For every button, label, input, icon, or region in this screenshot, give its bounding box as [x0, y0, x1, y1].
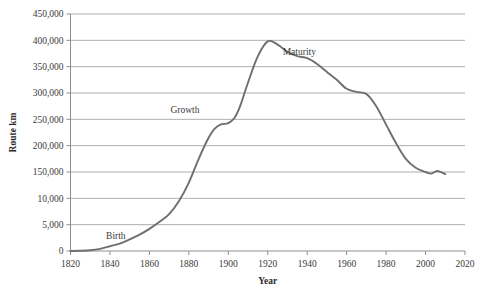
- x-tick-label: 1880: [179, 259, 198, 269]
- x-axis-title: Year: [258, 276, 278, 286]
- x-tick-label: 1820: [61, 259, 80, 269]
- y-tick-label: 450,000: [33, 9, 64, 19]
- y-axis-title: Route km: [8, 112, 18, 152]
- y-tick-label: 0: [59, 246, 64, 256]
- y-tick-label: 350,000: [33, 62, 64, 72]
- curve-annotation-birth: Birth: [106, 231, 126, 241]
- x-tick-label: 1960: [337, 259, 356, 269]
- y-tick-label: 200,000: [33, 141, 64, 151]
- x-tick-label: 1920: [258, 259, 277, 269]
- curve-annotation-growth: Growth: [170, 105, 199, 115]
- y-tick-label: 250,000: [33, 115, 64, 125]
- x-tick-label: 1840: [100, 259, 119, 269]
- x-tick-label: 1980: [377, 259, 396, 269]
- curve-annotation-maturity: Maturity: [283, 47, 316, 57]
- chart-figure: 05,00010,000150,000200,000250,000300,000…: [0, 0, 483, 299]
- route-km-line-chart: 05,00010,000150,000200,000250,000300,000…: [0, 0, 483, 299]
- x-tick-label: 2020: [456, 259, 475, 269]
- y-tick-label: 5,000: [42, 220, 64, 230]
- chart-background: [0, 0, 483, 299]
- x-tick-label: 1860: [140, 259, 159, 269]
- y-tick-label: 150,000: [33, 167, 64, 177]
- y-tick-label: 300,000: [33, 88, 64, 98]
- x-tick-label: 1940: [298, 259, 317, 269]
- y-tick-label: 400,000: [33, 36, 64, 46]
- y-tick-label: 10,000: [37, 194, 63, 204]
- x-tick-label: 2000: [416, 259, 435, 269]
- x-tick-label: 1900: [219, 259, 238, 269]
